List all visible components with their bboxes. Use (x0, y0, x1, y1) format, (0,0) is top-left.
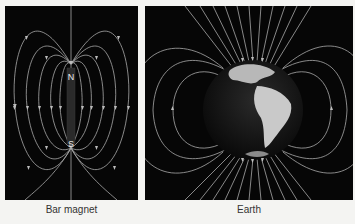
south-pole-label: S (68, 139, 74, 149)
earth-field-diagram (145, 6, 353, 200)
bar-magnet-field-diagram: N S (5, 6, 138, 200)
bar-magnet-caption: Bar magnet (5, 204, 138, 215)
north-pole-label: N (68, 72, 75, 82)
earth-caption: Earth (145, 204, 353, 215)
earth-panel (145, 6, 353, 200)
bar-magnet-panel: N S (5, 6, 138, 200)
